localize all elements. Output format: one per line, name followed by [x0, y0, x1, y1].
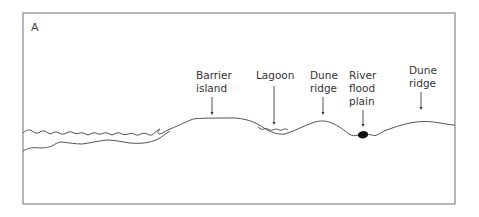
- panel-label: A: [31, 21, 39, 34]
- arrow-dune-ridge-2: [420, 92, 423, 110]
- label-barrier-island: Barrier island: [196, 69, 235, 94]
- label-river-flood-plain: River flood plain: [349, 69, 380, 107]
- arrow-dune-ridge-1: [322, 97, 325, 115]
- arrow-barrier-island: [211, 97, 214, 115]
- sea-surface: [23, 118, 264, 135]
- flood-plain-deposit: [358, 131, 368, 138]
- label-dune-ridge-2: Dune ridge: [409, 64, 440, 89]
- diagram-frame: [23, 13, 455, 204]
- label-dune-ridge-1: Dune ridge: [310, 69, 341, 94]
- arrow-river-flood-plain: [362, 110, 365, 127]
- arrow-lagoon: [273, 86, 276, 125]
- label-lagoon: Lagoon: [256, 69, 294, 81]
- coastal-profile-diagram: A Barrier island Lagoon Dune ridge River…: [0, 0, 479, 217]
